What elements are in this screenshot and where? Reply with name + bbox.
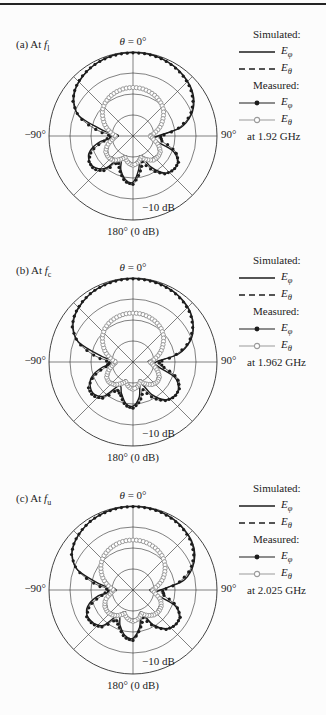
freq-subscript: u — [47, 498, 51, 507]
simulated-heading: Simulated: — [238, 252, 326, 269]
theta-zero-value: = 0° — [125, 35, 147, 47]
angle-label-left: −90° — [8, 354, 46, 366]
ephi-label: Eφ — [281, 44, 292, 59]
open-dot-line-icon — [238, 341, 278, 351]
solid-line-icon — [238, 501, 278, 511]
legend-entry-sim-etheta: Eθ — [238, 60, 326, 77]
chart-block-a: (a) At fl θ = 0° −90° 90° −10 dB 180° (0… — [0, 24, 326, 256]
panel-label-b: (b) At fc — [16, 264, 51, 279]
frequency-note: at 1.92 GHz — [238, 128, 326, 145]
legend-entry-meas-ephi: Eφ — [238, 94, 326, 111]
radiation-pattern-figure: (a) At fl θ = 0° −90° 90° −10 dB 180° (0… — [0, 0, 326, 715]
legend-entry-meas-etheta: Eθ — [238, 111, 326, 128]
angle-label-right: 90° — [221, 582, 236, 594]
legend-entry-sim-ephi: Eφ — [238, 497, 326, 514]
legend-entry-sim-ephi: Eφ — [238, 269, 326, 286]
etheta-label: Eθ — [281, 61, 292, 76]
etheta-label: Eθ — [281, 112, 292, 127]
theta-zero-label: θ = 0° — [119, 489, 146, 501]
legend-entry-sim-etheta: Eθ — [238, 514, 326, 531]
chart-block-b: (b) At fc θ = 0° −90° 90° −10 dB 180° (0… — [0, 250, 326, 482]
legend-entry-meas-ephi: Eφ — [238, 320, 326, 337]
panel-prefix: (c) At — [16, 492, 44, 504]
page-top-rule — [0, 3, 326, 5]
legend-entry-meas-etheta: Eθ — [238, 565, 326, 582]
frequency-note: at 2.025 GHz — [238, 582, 326, 599]
ring-db-label: −10 dB — [142, 201, 175, 213]
legend-entry-sim-etheta: Eθ — [238, 286, 326, 303]
theta-zero-label: θ = 0° — [119, 35, 146, 47]
etheta-label: Eθ — [281, 515, 292, 530]
ephi-label: Eφ — [281, 321, 292, 336]
measured-heading: Measured: — [238, 77, 326, 94]
legend-b: Simulated: Eφ Eθ Measured: Eφ Eθ at 1.96… — [238, 252, 326, 371]
dashed-line-icon — [238, 290, 278, 300]
angle-label-left: −90° — [8, 128, 46, 140]
solid-line-icon — [238, 273, 278, 283]
theta-zero-value: = 0° — [125, 489, 147, 501]
panel-prefix: (a) At — [16, 38, 44, 50]
ephi-label: Eφ — [281, 95, 292, 110]
legend-a: Simulated: Eφ Eθ Measured: Eφ Eθ at 1.92… — [238, 26, 326, 145]
freq-subscript: l — [47, 44, 49, 53]
etheta-label: Eθ — [281, 287, 292, 302]
chart-block-c: (c) At fu θ = 0° −90° 90° −10 dB 180° (0… — [0, 478, 326, 710]
measured-heading: Measured: — [238, 531, 326, 548]
filled-dot-line-icon — [238, 324, 278, 334]
dashed-line-icon — [238, 518, 278, 528]
filled-dot-line-icon — [238, 552, 278, 562]
legend-c: Simulated: Eφ Eθ Measured: Eφ Eθ at 2.02… — [238, 480, 326, 599]
ephi-label: Eφ — [281, 498, 292, 513]
freq-subscript: c — [48, 270, 52, 279]
legend-entry-sim-ephi: Eφ — [238, 43, 326, 60]
bottom-angle-label: 180° (0 dB) — [107, 225, 159, 237]
theta-zero-label: θ = 0° — [119, 261, 146, 273]
ephi-label: Eφ — [281, 270, 292, 285]
open-dot-line-icon — [238, 569, 278, 579]
ring-db-label: −10 dB — [142, 655, 175, 667]
legend-entry-meas-ephi: Eφ — [238, 548, 326, 565]
solid-line-icon — [238, 47, 278, 57]
etheta-label: Eθ — [281, 338, 292, 353]
bottom-angle-label: 180° (0 dB) — [107, 679, 159, 691]
frequency-note: at 1.962 GHz — [238, 354, 326, 371]
simulated-heading: Simulated: — [238, 26, 326, 43]
ephi-label: Eφ — [281, 549, 292, 564]
angle-label-right: 90° — [221, 128, 236, 140]
panel-prefix: (b) At — [16, 264, 45, 276]
panel-label-c: (c) At fu — [16, 492, 51, 507]
open-dot-line-icon — [238, 115, 278, 125]
etheta-label: Eθ — [281, 566, 292, 581]
bottom-angle-label: 180° (0 dB) — [107, 451, 159, 463]
angle-label-right: 90° — [221, 354, 236, 366]
simulated-heading: Simulated: — [238, 480, 326, 497]
theta-zero-value: = 0° — [125, 261, 147, 273]
measured-heading: Measured: — [238, 303, 326, 320]
dashed-line-icon — [238, 64, 278, 74]
ring-db-label: −10 dB — [142, 427, 175, 439]
angle-label-left: −90° — [8, 582, 46, 594]
panel-label-a: (a) At fl — [16, 38, 49, 53]
filled-dot-line-icon — [238, 98, 278, 108]
legend-entry-meas-etheta: Eθ — [238, 337, 326, 354]
